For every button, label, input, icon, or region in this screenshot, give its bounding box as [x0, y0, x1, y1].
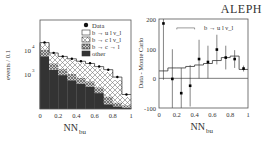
legend-item-other: other	[82, 50, 106, 57]
histogram-bar-segment	[86, 81, 95, 86]
legend-item-data: Data	[84, 22, 105, 29]
data-point-marker	[171, 78, 174, 81]
svg-text:10: 10	[24, 71, 32, 79]
svg-text:0.4: 0.4	[72, 112, 81, 119]
data-point-marker	[98, 65, 100, 67]
svg-text:4: 4	[32, 44, 35, 49]
data-marker-icon	[84, 23, 88, 27]
svg-text:0: 0	[157, 111, 160, 118]
data-point-marker	[107, 69, 109, 71]
svg-text:NN: NN	[64, 122, 78, 133]
data-point-marker	[62, 55, 64, 57]
histogram-bar-segment	[104, 72, 113, 97]
data-point-marker	[80, 60, 82, 62]
right-y-tick-200: 200	[146, 16, 156, 23]
histogram-bar-segment	[113, 102, 122, 106]
solid-swatch-icon	[82, 51, 90, 56]
histogram-bar-segment	[67, 74, 76, 80]
svg-text:b → c l ν_l: b → c l ν_l	[92, 36, 121, 43]
histogram-bar-segment	[122, 105, 131, 107]
white-swatch-icon	[82, 30, 90, 35]
data-point-marker	[189, 84, 192, 87]
histogram-bar-segment	[113, 80, 122, 103]
histogram-bar-segment	[86, 87, 95, 109]
svg-text:1: 1	[129, 112, 132, 119]
data-point-marker	[207, 61, 210, 64]
histogram-bar-segment	[113, 106, 122, 109]
histogram-bar-segment	[49, 70, 58, 109]
right-y-tick-0: 0	[153, 75, 156, 82]
left-y-tick-1e4: 10 4	[24, 44, 35, 55]
svg-text:0: 0	[38, 112, 41, 119]
legend-item-bcl: b → c → l	[82, 43, 120, 50]
svg-text:3: 3	[32, 68, 35, 73]
right-y-axis-label: Data - Monte Carlo	[137, 38, 144, 89]
svg-text:bu: bu	[206, 127, 214, 135]
svg-text:b → c → l: b → c → l	[92, 43, 120, 50]
left-y-tick-1e3: 10 3	[24, 68, 35, 79]
histogram-bar-segment	[49, 54, 58, 64]
histogram-bar-segment	[95, 93, 104, 109]
histogram-bar-segment	[104, 104, 113, 109]
histogram-bar-segment	[122, 97, 131, 105]
svg-text:b → u l ν_l: b → u l ν_l	[92, 29, 121, 36]
legend-item-bulnu: b → u l ν_l	[82, 29, 121, 36]
dense-crosshatch-swatch-icon	[82, 44, 90, 49]
svg-text:10: 10	[24, 47, 32, 55]
legend-item-bclnu: b → c l ν_l	[82, 36, 121, 43]
histogram-bar-segment	[95, 68, 104, 87]
left-y-axis-label: events / 0.1	[4, 50, 11, 80]
data-point-marker	[43, 41, 45, 43]
right-annotation: b → u l ν_l	[204, 24, 233, 31]
svg-text:0.2: 0.2	[54, 112, 62, 119]
data-point-marker	[198, 58, 201, 61]
annotation-bracket	[177, 28, 195, 30]
histogram-bar-segment	[86, 65, 95, 81]
histogram-bar-segment	[40, 56, 49, 109]
data-point-marker	[180, 92, 183, 95]
histogram-bar-segment	[95, 87, 104, 93]
left-x-axis-label: NN bu	[64, 122, 87, 136]
left-x-ticks: 00.20.40.60.81	[38, 112, 132, 119]
svg-text:0.8: 0.8	[226, 111, 234, 118]
histogram-bar-segment	[58, 69, 67, 75]
experiment-label: ALEPH	[221, 2, 262, 16]
data-point-marker	[125, 93, 127, 95]
data-point-marker	[52, 52, 54, 54]
crosshatch-swatch-icon	[82, 37, 90, 42]
histogram-bar-segment	[104, 97, 113, 105]
data-point-marker	[71, 58, 73, 60]
left-legend: Data b → u l ν_l b → c l ν_l b → c → l o…	[82, 22, 121, 58]
svg-text:0.8: 0.8	[109, 112, 117, 119]
svg-text:0.6: 0.6	[208, 111, 217, 118]
histogram-bar-segment	[67, 80, 76, 109]
histogram-bar-segment	[40, 43, 49, 49]
histogram-bar-segment	[67, 60, 76, 74]
figure-canvas: ALEPH events / 0.1 10 4 10 3 00.20.40.60…	[0, 0, 264, 141]
histogram-bar-segment	[76, 78, 85, 84]
histogram-bar-segment	[58, 57, 67, 69]
data-point-marker	[116, 76, 118, 78]
svg-text:Data: Data	[92, 22, 104, 29]
histogram-bar-segment	[58, 75, 67, 109]
svg-text:0.2: 0.2	[173, 111, 181, 118]
histogram-bar-segment	[40, 49, 49, 56]
data-point-marker	[224, 56, 227, 59]
right-y-tick-100: 100	[146, 46, 156, 53]
data-point-marker	[216, 48, 219, 51]
data-point-marker	[162, 22, 165, 25]
svg-text:NN: NN	[191, 121, 205, 132]
histogram-bar-segment	[49, 63, 58, 70]
data-point-marker	[242, 67, 245, 70]
svg-text:0.4: 0.4	[191, 111, 200, 118]
histogram-bar-segment	[76, 84, 85, 109]
right-difference-plot	[159, 19, 248, 108]
svg-text:other: other	[92, 50, 106, 57]
data-point-marker	[89, 62, 91, 64]
svg-text:0.6: 0.6	[91, 112, 100, 119]
data-point-marker	[233, 58, 236, 61]
right-x-ticks: 00.20.40.60.81	[157, 111, 249, 118]
svg-text:1: 1	[246, 111, 249, 118]
right-x-axis-label: NN bu	[191, 121, 214, 135]
right-y-tick-minus100: -100	[144, 105, 156, 112]
